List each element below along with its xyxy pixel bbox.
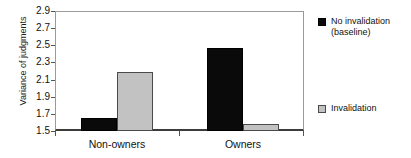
x-axis-tick-marks: [55, 131, 304, 136]
bar-owners-series2: [243, 124, 279, 131]
x-axis-tick-mark: [55, 131, 56, 136]
y-axis-tick-label: 2.7: [22, 23, 50, 33]
light-square-swatch-icon: [318, 105, 326, 113]
y-axis-tick-label: 1.7: [22, 109, 50, 119]
y-axis-tick-label: 2.5: [22, 40, 50, 50]
x-axis-tick-mark: [303, 131, 304, 136]
y-axis-tick-label: 2.9: [22, 6, 50, 16]
dark-square-swatch-icon: [318, 18, 326, 26]
legend-item-2: Invalidation: [318, 103, 377, 114]
chart-legend: No invalidation (baseline)Invalidation: [318, 12, 411, 132]
y-axis-tick-label: 2.1: [22, 75, 50, 85]
legend-item-label: Invalidation: [331, 103, 377, 114]
bar-non-owners-series1: [81, 118, 117, 131]
x-axis-tick-mark: [179, 131, 180, 136]
y-axis-tick-label: 2.3: [22, 57, 50, 67]
bar-chart-figure: Variance of judgments 1.51.71.92.12.32.5…: [0, 0, 411, 158]
bar-owners-series1: [207, 48, 243, 131]
y-axis-tick-label: 1.5: [22, 126, 50, 136]
x-axis-tick-label: Owners: [183, 138, 303, 151]
y-axis-tick-label: 1.9: [22, 92, 50, 102]
y-axis-tick-labels: 1.51.71.92.12.32.52.72.9: [22, 11, 50, 131]
bar-non-owners-series2: [117, 72, 153, 131]
legend-item-label: No invalidation (baseline): [331, 16, 390, 38]
x-axis-tick-label: Non-owners: [57, 138, 177, 151]
plot-area: [55, 11, 304, 131]
legend-item-1: No invalidation (baseline): [318, 16, 390, 38]
x-axis-tick-labels: Non-ownersOwners: [55, 138, 304, 154]
